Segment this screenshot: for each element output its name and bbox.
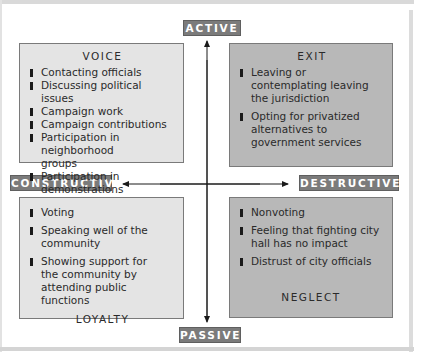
axis-label-active: ACTIVE: [183, 20, 241, 36]
bullet-icon: [30, 121, 33, 129]
bullet-icon: [30, 258, 33, 266]
list-item: Participation in neighborhood groups: [30, 131, 141, 170]
list-item: Contacting officials: [30, 66, 175, 79]
quadrant-title-exit: EXIT: [240, 50, 384, 63]
list-item: Leaving or contemplating leaving the jur…: [240, 66, 384, 105]
quadrant-exit: EXIT Leaving or contemplating leaving th…: [229, 43, 393, 167]
voice-list: Contacting officials Discussing politica…: [30, 66, 175, 196]
bullet-icon: [30, 134, 33, 142]
bullet-icon: [30, 108, 33, 116]
neglect-list: Nonvoting Feeling that fighting city hal…: [240, 206, 384, 268]
bullet-icon: [240, 113, 243, 121]
quadrant-loyalty: Voting Speaking well of the community Sh…: [19, 197, 184, 319]
list-item: Distrust of city officials: [240, 255, 384, 268]
list-item: Discussing political issues: [30, 79, 175, 105]
axis-label-passive: PASSIVE: [179, 327, 241, 343]
list-item: Speaking well of the community: [30, 224, 175, 250]
quadrant-title-voice: VOICE: [30, 50, 175, 63]
quadrant-voice: VOICE Contacting officials Discussing po…: [19, 43, 184, 163]
quadrant-neglect: Nonvoting Feeling that fighting city hal…: [229, 197, 393, 318]
list-item: Participation in demonstrations: [30, 170, 175, 196]
bullet-icon: [240, 209, 243, 217]
list-item: Opting for privatized alternatives to go…: [240, 110, 384, 149]
quadrant-title-loyalty: LOYALTY: [30, 313, 175, 326]
axis-label-destructive: DESTRUCTIVE: [299, 175, 399, 191]
bullet-icon: [240, 258, 243, 266]
quadrant-title-neglect: NEGLECT: [230, 291, 392, 304]
bullet-icon: [30, 209, 33, 217]
exit-list: Leaving or contemplating leaving the jur…: [240, 66, 384, 149]
bullet-icon: [30, 69, 33, 77]
list-item: Nonvoting: [240, 206, 384, 219]
bullet-icon: [240, 69, 243, 77]
list-item: Campaign work: [30, 105, 175, 118]
bullet-icon: [240, 227, 243, 235]
list-item: Showing support for the community by att…: [30, 255, 161, 307]
list-item: Voting: [30, 206, 175, 219]
list-item: Campaign contributions: [30, 118, 175, 131]
bullet-icon: [30, 227, 33, 235]
bullet-icon: [30, 173, 33, 181]
bullet-icon: [30, 82, 33, 90]
loyalty-list: Voting Speaking well of the community Sh…: [30, 206, 175, 307]
list-item: Feeling that fighting city hall has no i…: [240, 224, 384, 250]
